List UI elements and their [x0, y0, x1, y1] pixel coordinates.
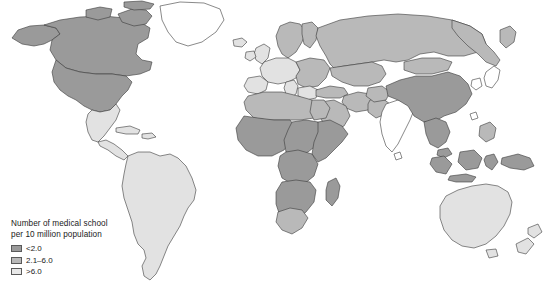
region-mongolia — [404, 58, 452, 74]
legend-title-line-2: per 10 million population — [11, 229, 171, 240]
legend-item-high: >6.0 — [11, 266, 171, 277]
region-ellesmere-island — [124, 1, 154, 10]
region-madagascar — [326, 178, 340, 206]
legend-item-low: <2.0 — [11, 243, 171, 254]
legend-item-list: <2.0 2.1–6.0 >6.0 — [11, 243, 171, 277]
region-mainland-southeast-asia — [424, 118, 450, 148]
region-cuba — [116, 126, 140, 134]
region-iceland — [233, 38, 247, 47]
legend-label-mid: 2.1–6.0 — [26, 256, 53, 265]
region-russia — [316, 14, 486, 68]
map-legend: Number of medical school per 10 million … — [11, 218, 171, 278]
region-turkey — [316, 86, 348, 98]
region-java — [448, 174, 476, 182]
region-tasmania — [486, 249, 498, 258]
region-south-africa — [276, 208, 308, 234]
region-sumatra — [430, 156, 452, 174]
region-hispaniola — [142, 133, 156, 139]
region-papua-new-guinea — [501, 154, 534, 170]
region-scandinavia — [276, 22, 306, 58]
region-philippines — [479, 122, 496, 142]
legend-swatch-low — [11, 245, 22, 252]
region-eastern-europe — [296, 58, 330, 88]
legend-label-low: <2.0 — [26, 244, 42, 253]
region-kamchatka — [500, 26, 516, 48]
region-sri-lanka — [394, 152, 402, 160]
region-japan — [484, 66, 500, 88]
legend-swatch-mid — [11, 257, 22, 264]
region-finland — [302, 22, 318, 48]
region-taiwan — [470, 112, 478, 120]
region-new-zealand-north — [528, 224, 542, 238]
world-choropleth-figure: Number of medical school per 10 million … — [0, 0, 556, 292]
region-ireland — [245, 51, 256, 61]
region-borneo — [458, 150, 482, 170]
region-korea — [471, 78, 482, 90]
legend-swatch-high — [11, 268, 22, 275]
region-greenland — [160, 2, 224, 46]
region-congo — [278, 150, 318, 184]
region-australia — [440, 184, 512, 248]
region-new-zealand-south — [516, 238, 534, 254]
legend-label-high: >6.0 — [26, 267, 42, 276]
region-sulawesi — [484, 154, 498, 170]
legend-title-line-1: Number of medical school — [11, 218, 171, 229]
legend-item-mid: 2.1–6.0 — [11, 255, 171, 266]
region-central-america — [98, 140, 128, 160]
